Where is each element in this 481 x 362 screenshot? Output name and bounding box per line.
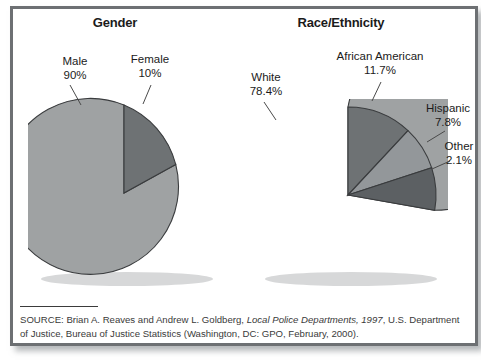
figure-frame: Gender Race/Ethnicity Male 90% Female 10…: [10, 6, 478, 346]
source-prefix: SOURCE: Brian A. Reaves and Andrew L. Go…: [20, 314, 247, 325]
plot-area: Gender Race/Ethnicity Male 90% Female 10…: [13, 9, 475, 343]
source-title: Local Police Departments, 1997: [247, 314, 383, 325]
leader-lines-race: [13, 9, 481, 349]
leader-line-hispanic: [427, 131, 445, 142]
source-note: SOURCE: Brian A. Reaves and Andrew L. Go…: [20, 313, 466, 341]
leader-line-other: [432, 161, 450, 169]
leader-line-african-american: [372, 82, 381, 101]
leader-line-white: [264, 102, 276, 120]
source-divider: [20, 306, 98, 307]
